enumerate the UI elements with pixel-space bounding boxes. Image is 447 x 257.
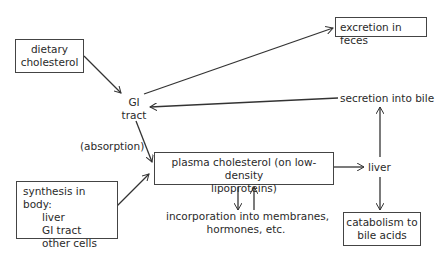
catabolism-box: catabolism to bile acids xyxy=(343,212,421,246)
synthesis-item: liver xyxy=(23,211,117,224)
gi-tract-label: GI tract xyxy=(120,96,148,122)
synthesis-item: other cells xyxy=(23,237,117,250)
secretion-label: secretion into bile xyxy=(340,92,434,105)
plasma-line1: plasma cholesterol (on low-density xyxy=(155,156,333,182)
incorporation-label: incorporation into membranes, hormones, … xyxy=(166,210,326,236)
dietary-line1: dietary xyxy=(16,43,83,56)
synthesis-title: synthesis in body: xyxy=(23,185,117,211)
dietary-cholesterol-box: dietary cholesterol xyxy=(15,39,84,73)
catabolism-line1: catabolism to xyxy=(344,216,420,229)
arrow-dietary-to-gi xyxy=(84,56,121,93)
arrow-synthesis-to-plasma xyxy=(117,174,149,206)
arrow-gi-to-excretion xyxy=(144,28,333,94)
absorption-label: (absorption) xyxy=(80,140,144,153)
plasma-line2: lipoproteins) xyxy=(155,182,333,195)
synthesis-box: synthesis in body: liver GI tract other … xyxy=(16,181,118,239)
synthesis-item: GI tract xyxy=(23,224,117,237)
excretion-box: excretion in feces xyxy=(335,17,427,37)
arrow-secretion-to-gi xyxy=(150,98,338,107)
dietary-line2: cholesterol xyxy=(16,56,83,69)
catabolism-line2: bile acids xyxy=(344,229,420,242)
plasma-cholesterol-box: plasma cholesterol (on low-density lipop… xyxy=(154,152,334,185)
liver-label: liver xyxy=(368,161,391,174)
